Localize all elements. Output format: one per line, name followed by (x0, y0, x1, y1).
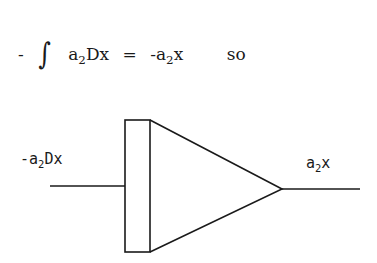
amplifier-triangle (150, 120, 282, 252)
integrator-bar (125, 120, 150, 252)
integrator-diagram (0, 0, 377, 263)
output-label: a2x (306, 154, 330, 172)
input-label: -a2Dx (20, 150, 62, 168)
